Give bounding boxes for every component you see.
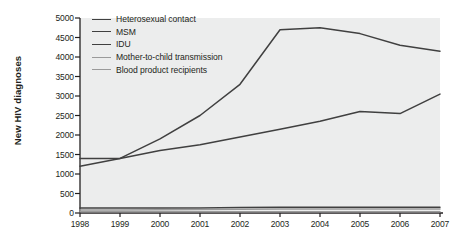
- legend-swatch-icon: [92, 19, 111, 20]
- legend-swatch-icon: [92, 69, 111, 70]
- legend-item: Mother-to-child transmission: [92, 51, 223, 64]
- legend-item: IDU: [92, 38, 223, 51]
- legend-item: Heterosexual contact: [92, 13, 223, 26]
- legend-label: Blood product recipients: [116, 65, 207, 75]
- legend-label: Heterosexual contact: [116, 14, 196, 24]
- hiv-diagnoses-line-chart: New HIV diagnoses 0500100015002000250030…: [0, 0, 470, 241]
- legend-swatch-icon: [92, 31, 111, 32]
- series-line: [80, 207, 440, 208]
- legend-label: Mother-to-child transmission: [116, 52, 223, 62]
- chart-legend: Heterosexual contactMSMIDUMother-to-chil…: [92, 13, 223, 76]
- legend-item: MSM: [92, 26, 223, 39]
- legend-swatch-icon: [92, 57, 111, 58]
- y-axis-ticks: [75, 18, 80, 213]
- chart-canvas: [0, 0, 470, 241]
- legend-item: Blood product recipients: [92, 63, 223, 76]
- series-line: [80, 209, 440, 210]
- legend-swatch-icon: [92, 44, 111, 45]
- legend-label: IDU: [116, 39, 131, 49]
- series-line: [80, 94, 440, 158]
- legend-label: MSM: [116, 27, 136, 37]
